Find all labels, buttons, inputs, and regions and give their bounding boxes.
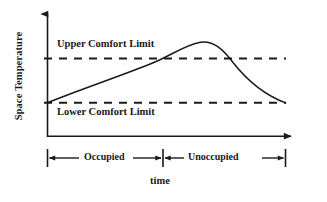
y-axis-title-text: Space Temperature (14, 32, 25, 121)
upper-comfort-limit-label: Upper Comfort Limit (57, 39, 154, 50)
diagram-canvas (0, 0, 327, 202)
space-temperature-curve (48, 42, 286, 103)
y-axis-title: Space Temperature (12, 28, 26, 124)
x-axis-title: time (150, 176, 170, 187)
lower-comfort-limit-label: Lower Comfort Limit (57, 107, 155, 118)
occupied-period-label: Occupied (84, 152, 125, 162)
unoccupied-period-label: Unoccupied (188, 152, 239, 162)
space-temperature-diagram: Space Temperature Upper Comfort Limit Lo… (0, 0, 327, 202)
